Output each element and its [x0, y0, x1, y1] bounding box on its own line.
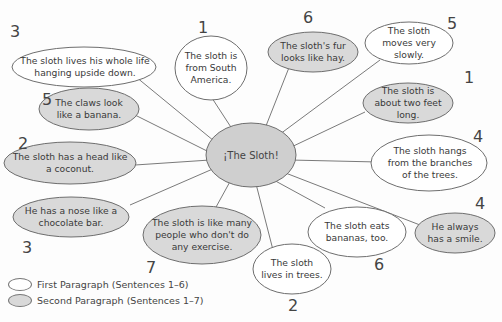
order-number: 1: [198, 18, 208, 37]
order-number: 3: [22, 238, 32, 257]
order-number: 2: [18, 134, 28, 153]
order-number: 4: [473, 127, 483, 146]
bubble-two-feet-long: The sloth is about two feet long.: [365, 85, 451, 121]
gray-oval-swatch: [8, 294, 32, 307]
bubble-fur-like-hay: The sloth's fur looks like hay.: [270, 34, 356, 70]
bubble-hangs-branches: The sloth hangs from the branches of the…: [378, 137, 482, 189]
bubble-nose-chocolate: He has a nose like a chocolate bar.: [14, 199, 128, 235]
bubble-claws-banana: The claws look like a banana.: [42, 91, 136, 127]
bubble-from-south-america: The sloth is from South America.: [178, 40, 244, 96]
legend-second-label: Second Paragraph (Sentences 1–7): [37, 295, 203, 306]
bubble-moves-slowly: The sloth moves very slowly.: [368, 25, 450, 61]
order-number: 6: [303, 8, 313, 27]
order-number: 3: [10, 22, 20, 41]
order-number: 7: [146, 258, 156, 277]
bubble-eats-bananas: The sloth eats bananas, too.: [312, 212, 402, 252]
order-number: 5: [447, 14, 457, 33]
order-number: 2: [288, 296, 298, 315]
white-oval-swatch: [8, 278, 32, 291]
legend-first-label: First Paragraph (Sentences 1–6): [37, 279, 188, 290]
bubble-no-exercise: The sloth is like many people who don't …: [146, 209, 258, 261]
order-number: 6: [374, 255, 384, 274]
bubble-lives-in-trees: The sloth lives in trees.: [256, 249, 328, 289]
legend-second-paragraph: Second Paragraph (Sentences 1–7): [8, 294, 203, 307]
order-number: 1: [464, 68, 474, 87]
legend-first-paragraph: First Paragraph (Sentences 1–6): [8, 278, 188, 291]
bubble-lives-upside-down: The sloth lives his whole life hanging u…: [14, 49, 156, 85]
bubble-always-smile: He always has a smile.: [418, 215, 492, 251]
center-topic: ¡The Sloth!: [206, 142, 296, 168]
order-number: 5: [42, 90, 52, 109]
sloth-idea-web: ¡The Sloth! The sloth lives his whole li…: [0, 0, 502, 322]
order-number: 4: [475, 194, 485, 213]
